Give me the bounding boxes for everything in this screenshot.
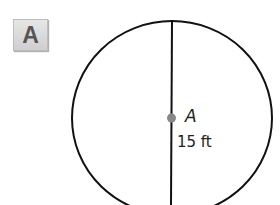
circle-diagram	[0, 0, 280, 205]
center-point	[167, 114, 176, 123]
center-point-label: A	[185, 106, 197, 126]
diameter-line	[171, 21, 172, 205]
diameter-measure-label: 15 ft	[177, 133, 212, 151]
